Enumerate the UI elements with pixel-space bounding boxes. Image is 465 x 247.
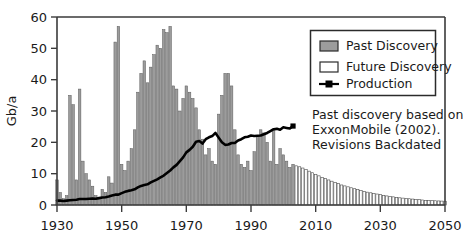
bar-past-discovery [237,155,240,205]
bar-future-discovery [331,181,334,205]
bar-future-discovery [376,194,379,205]
bar-future-discovery [379,195,382,205]
bar-future-discovery [392,197,395,205]
bar-future-discovery [337,184,340,205]
bar-past-discovery [143,61,146,205]
bar-past-discovery [227,73,230,205]
bar-past-discovery [98,199,101,205]
bar-past-discovery [117,26,120,205]
bar-past-discovery [91,186,94,205]
bar-future-discovery [340,185,343,205]
bar-past-discovery [120,164,123,205]
bar-past-discovery [133,130,136,205]
bar-future-discovery [314,174,317,205]
bar-past-discovery [169,26,172,205]
bar-past-discovery [256,136,259,205]
bar-future-discovery [366,192,369,205]
x-tick-label: 1950 [105,218,138,233]
bar-future-discovery [395,197,398,205]
bar-past-discovery [162,30,165,205]
bar-past-discovery [211,161,214,205]
y-tick-label: 40 [30,72,47,87]
bar-past-discovery [208,149,211,205]
bar-future-discovery [411,199,414,205]
bar-future-discovery [298,167,301,205]
x-tick-label: 1990 [234,218,267,233]
bar-past-discovery [59,192,62,205]
bar-past-discovery [292,164,295,205]
x-tick-label: 2030 [364,218,397,233]
bar-past-discovery [179,111,182,205]
bar-past-discovery [130,149,133,205]
bar-future-discovery [347,187,350,205]
bar-past-discovery [272,130,275,205]
bar-future-discovery [382,195,385,205]
legend-label-production: Production [346,76,413,91]
bar-future-discovery [389,197,392,205]
bar-past-discovery [289,167,292,205]
bar-future-discovery [308,171,311,205]
bar-past-discovery [217,114,220,205]
bar-past-discovery [266,142,269,205]
y-tick-label: 20 [30,135,47,150]
y-tick-label: 10 [30,166,47,181]
bar-past-discovery [240,164,243,205]
bar-past-discovery [224,73,227,205]
y-axis-title: Gb/a [4,96,19,127]
bar-future-discovery [327,180,330,205]
bar-future-discovery [334,182,337,205]
bar-future-discovery [363,192,366,205]
bar-past-discovery [95,196,98,205]
bar-past-discovery [78,89,81,205]
x-tick-label: 1930 [40,218,73,233]
discovery-production-chart: 0102030405060 19301950197019902010203020… [0,0,465,247]
bar-future-discovery [415,199,418,205]
annotation-line-2: ExxonMobile (2002). [312,122,440,137]
bar-past-discovery [159,48,162,205]
production-end-marker [290,123,295,128]
bar-past-discovery [279,149,282,205]
bar-past-discovery [146,83,149,205]
bar-past-discovery [204,155,207,205]
bar-future-discovery [356,190,359,205]
bar-past-discovery [282,155,285,205]
bar-past-discovery [221,95,224,205]
bar-past-discovery [127,161,130,205]
bar-past-discovery [192,98,195,205]
annotation-line-1: Past discovery based on [312,107,463,122]
bar-past-discovery [253,152,256,205]
bar-past-discovery [214,164,217,205]
x-tick-label: 1970 [170,218,203,233]
legend-label-future-discovery: Future Discovery [346,59,452,74]
bar-future-discovery [402,198,405,205]
bar-past-discovery [182,98,185,205]
bar-past-discovery [185,86,188,205]
bar-past-discovery [124,171,127,205]
bar-future-discovery [295,166,298,205]
bar-past-discovery [201,139,204,205]
bar-past-discovery [269,161,272,205]
bar-future-discovery [311,173,314,205]
bar-past-discovery [263,133,266,205]
bar-future-discovery [408,199,411,205]
bar-past-discovery [172,86,175,205]
bar-future-discovery [405,198,408,205]
legend-label-past-discovery: Past Discovery [346,38,438,53]
bar-past-discovery [195,108,198,205]
bar-future-discovery [353,189,356,205]
bar-past-discovery [259,130,262,205]
bar-future-discovery [398,198,401,205]
bar-future-discovery [321,177,324,205]
y-tick-label: 0 [39,198,47,213]
bar-future-discovery [324,179,327,205]
bar-past-discovery [114,42,117,205]
bar-past-discovery [166,33,169,205]
bar-past-discovery [72,105,75,205]
legend-marker-production [326,81,333,88]
bar-past-discovery [107,177,110,205]
bar-future-discovery [360,191,363,205]
bar-future-discovery [350,188,353,205]
x-tick-label: 2050 [428,218,461,233]
bar-future-discovery [369,193,372,205]
y-tick-label: 30 [30,104,47,119]
